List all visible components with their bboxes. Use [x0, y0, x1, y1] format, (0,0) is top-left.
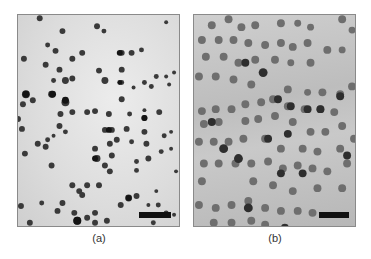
scale-bar-a [139, 212, 171, 218]
particles-b [194, 15, 355, 226]
micrograph-panel-a [17, 14, 180, 227]
panel-b-caption: (b) [260, 232, 290, 244]
particles-a [18, 15, 179, 226]
scale-bar-b [319, 212, 349, 218]
micrograph-panel-b [193, 14, 356, 227]
panel-a-caption: (a) [84, 232, 114, 244]
